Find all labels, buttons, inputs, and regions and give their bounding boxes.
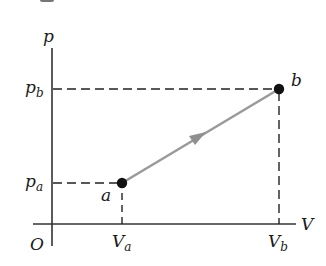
- point-b-label: b: [291, 70, 302, 90]
- pa-label: pa: [25, 171, 43, 194]
- y-axis-label: p: [43, 26, 54, 46]
- x-axis-label: V: [301, 214, 315, 234]
- point-b: [274, 84, 284, 94]
- va-label: Va: [112, 231, 131, 254]
- point-a-label: a: [101, 185, 111, 205]
- point-a: [117, 178, 127, 188]
- origin-label: O: [30, 234, 44, 254]
- pb-label: pb: [25, 77, 44, 100]
- direction-arrow-icon: [189, 132, 206, 145]
- pv-diagram: p V O pb pa Va Vb a b: [0, 0, 326, 266]
- vb-label: Vb: [268, 231, 288, 254]
